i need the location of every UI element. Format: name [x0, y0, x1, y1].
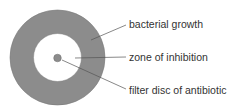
label-bacterial-growth: bacterial growth — [129, 18, 203, 30]
label-filter-disc: filter disc of antibiotic — [129, 84, 226, 96]
label-zone-of-inhibition: zone of inhibition — [129, 51, 208, 63]
filter-disc — [54, 54, 62, 62]
